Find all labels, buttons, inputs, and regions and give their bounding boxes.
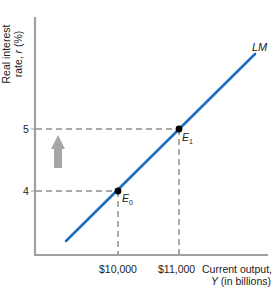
y-axis-label: Real interest rate, r (%)	[0, 4, 24, 104]
lm-curve	[66, 54, 255, 241]
point-label-e0: E0	[122, 192, 133, 209]
tick-label-x-10000: $10,000	[99, 263, 137, 275]
tick-label-y-4: 4	[23, 185, 29, 197]
tick-label-y-5: 5	[23, 123, 29, 135]
x-axis-label: Current output, Y (in billions)	[202, 263, 271, 287]
up-arrow-icon	[51, 135, 65, 168]
lm-curve-chart	[0, 0, 278, 294]
lm-curve-label: LM	[252, 41, 267, 53]
point-e0	[115, 188, 122, 195]
tick-label-x-11000: $11,000	[158, 263, 195, 275]
point-label-e1: E1	[182, 131, 193, 148]
